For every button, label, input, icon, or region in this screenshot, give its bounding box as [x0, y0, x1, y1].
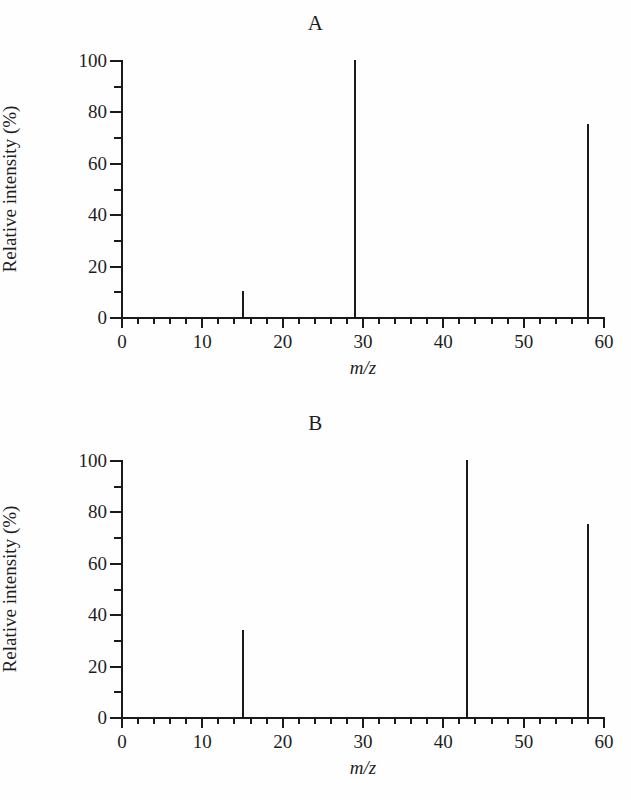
x-tick-minor: [426, 317, 428, 324]
y-tick-major: [110, 563, 121, 565]
x-tick-minor: [266, 717, 268, 724]
x-tick-minor: [410, 717, 412, 724]
y-tick-label: 40: [88, 205, 107, 224]
spectrum-peak: [354, 60, 356, 317]
spectrum-panel-a: A Relative intensity (%) m/z 02040608010…: [0, 0, 631, 400]
y-tick-major: [110, 163, 121, 165]
y-tick-minor: [114, 486, 121, 488]
y-tick-minor: [114, 189, 121, 191]
y-tick-major: [110, 60, 121, 62]
y-axis-title-b: Relative intensity (%): [0, 459, 20, 719]
x-tick-label: 50: [514, 332, 533, 351]
y-tick-major: [110, 666, 121, 668]
x-tick-minor: [378, 317, 380, 324]
x-tick-minor: [474, 717, 476, 724]
x-tick-minor: [507, 717, 509, 724]
x-tick-minor: [571, 317, 573, 324]
x-tick-minor: [185, 317, 187, 324]
peak-layer-a: [122, 60, 604, 317]
x-tick-major: [201, 317, 203, 328]
x-tick-minor: [153, 717, 155, 724]
peak-layer-b: [122, 460, 604, 717]
x-tick-minor: [153, 317, 155, 324]
x-tick-major: [121, 317, 123, 328]
x-axis-title-a: m/z: [122, 358, 604, 378]
y-tick-minor: [114, 240, 121, 242]
x-tick-major: [121, 717, 123, 728]
x-tick-major: [282, 317, 284, 328]
y-tick-major: [110, 614, 121, 616]
x-tick-minor: [491, 317, 493, 324]
y-tick-major: [110, 717, 121, 719]
x-tick-label: 20: [273, 732, 292, 751]
plot-area-b: Relative intensity (%) m/z 0204060801000…: [122, 460, 604, 717]
x-tick-minor: [330, 317, 332, 324]
x-tick-minor: [266, 317, 268, 324]
panel-title-a: A: [0, 12, 631, 34]
y-tick-label: 60: [88, 153, 107, 172]
y-axis-title-a: Relative intensity (%): [0, 59, 20, 319]
x-tick-major: [523, 317, 525, 328]
x-tick-minor: [539, 317, 541, 324]
x-tick-minor: [458, 717, 460, 724]
y-tick-minor: [114, 589, 121, 591]
y-tick-minor: [114, 537, 121, 539]
x-tick-minor: [217, 717, 219, 724]
x-tick-minor: [169, 317, 171, 324]
x-tick-minor: [330, 717, 332, 724]
x-tick-label: 10: [193, 332, 212, 351]
x-tick-minor: [137, 317, 139, 324]
x-tick-minor: [314, 717, 316, 724]
x-tick-minor: [394, 717, 396, 724]
y-tick-label: 20: [88, 256, 107, 275]
x-tick-minor: [555, 717, 557, 724]
x-tick-label: 40: [434, 732, 453, 751]
x-tick-minor: [250, 317, 252, 324]
x-tick-minor: [346, 317, 348, 324]
y-tick-major: [110, 511, 121, 513]
y-tick-label: 100: [79, 51, 108, 70]
spectrum-panel-b: B Relative intensity (%) m/z 02040608010…: [0, 400, 631, 800]
panel-title-b: B: [0, 412, 631, 434]
y-tick-major: [110, 317, 121, 319]
y-tick-minor: [114, 291, 121, 293]
x-tick-minor: [587, 317, 589, 324]
x-tick-minor: [233, 317, 235, 324]
x-tick-minor: [571, 717, 573, 724]
x-tick-label: 60: [595, 332, 614, 351]
plot-area-a: Relative intensity (%) m/z 0204060801000…: [122, 60, 604, 317]
y-tick-minor: [114, 137, 121, 139]
x-tick-major: [442, 317, 444, 328]
y-tick-major: [110, 214, 121, 216]
y-tick-label: 40: [88, 605, 107, 624]
x-tick-major: [362, 317, 364, 328]
x-tick-major: [603, 317, 605, 328]
x-tick-minor: [217, 317, 219, 324]
x-tick-major: [201, 717, 203, 728]
x-tick-label: 20: [273, 332, 292, 351]
y-tick-major: [110, 111, 121, 113]
x-axis-title-b: m/z: [122, 758, 604, 778]
y-tick-label: 80: [88, 102, 107, 121]
spectrum-peak: [242, 630, 244, 717]
x-tick-minor: [298, 317, 300, 324]
x-tick-major: [603, 717, 605, 728]
x-tick-label: 10: [193, 732, 212, 751]
x-tick-label: 30: [354, 332, 373, 351]
y-tick-label: 60: [88, 553, 107, 572]
x-tick-major: [442, 717, 444, 728]
y-tick-minor: [114, 691, 121, 693]
x-tick-label: 40: [434, 332, 453, 351]
y-tick-major: [110, 460, 121, 462]
y-tick-label: 100: [79, 451, 108, 470]
x-tick-minor: [539, 717, 541, 724]
spectrum-peak: [587, 524, 589, 717]
x-tick-minor: [137, 717, 139, 724]
x-tick-minor: [491, 717, 493, 724]
x-tick-minor: [314, 317, 316, 324]
x-tick-minor: [169, 717, 171, 724]
x-tick-minor: [250, 717, 252, 724]
y-tick-label: 0: [98, 308, 108, 327]
x-tick-major: [362, 717, 364, 728]
x-tick-major: [282, 717, 284, 728]
